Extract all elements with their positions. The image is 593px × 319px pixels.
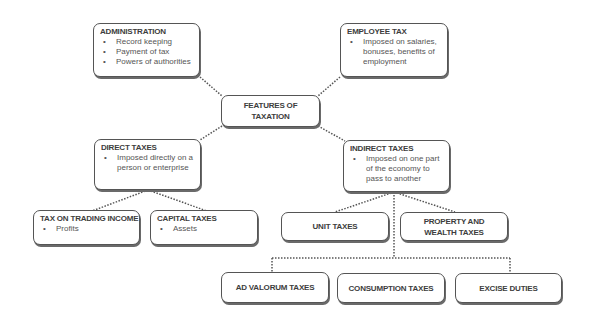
administration-node: ADMINISTRATION Record keeping Payment of… — [93, 23, 200, 77]
indirect-taxes-title: INDIRECT TAXES — [350, 144, 443, 153]
ad-valorum-taxes-node: AD VALORUM TAXES — [221, 272, 329, 303]
employee-tax-title: EMPLOYEE TAX — [347, 27, 441, 36]
indirect-taxes-bullet: Imposed on one part of the economy to pa… — [350, 154, 443, 184]
administration-bullet: Payment of tax — [100, 47, 193, 57]
unit-taxes-title: UNIT TAXES — [313, 221, 358, 232]
root-node: FEATURES OF TAXATION — [221, 95, 320, 127]
administration-bullet: Record keeping — [100, 37, 193, 47]
direct-taxes-bullet: Imposed directly on a person or enterpri… — [101, 153, 194, 173]
ad-valorum-taxes-title: AD VALORUM TAXES — [236, 282, 315, 293]
tax-on-trading-income-node: TAX ON TRADING INCOME Profits — [33, 210, 140, 245]
capital-taxes-title: CAPITAL TAXES — [157, 214, 251, 223]
tax-on-trading-income-bullet: Profits — [40, 224, 133, 234]
unit-taxes-node: UNIT TAXES — [281, 212, 389, 241]
administration-title: ADMINISTRATION — [100, 27, 193, 36]
direct-taxes-node: DIRECT TAXES Imposed directly on a perso… — [94, 139, 201, 190]
excise-duties-node: EXCISE DUTIES — [455, 273, 562, 303]
capital-taxes-node: CAPITAL TAXES Assets — [150, 210, 258, 245]
administration-bullet: Powers of authorities — [100, 57, 193, 67]
root-title: FEATURES OF TAXATION — [228, 100, 313, 122]
employee-tax-node: EMPLOYEE TAX Imposed on salaries, bonuse… — [340, 23, 448, 77]
consumption-taxes-node: CONSUMPTION TAXES — [337, 273, 445, 303]
employee-tax-bullet: Imposed on salaries, bonuses, benefits o… — [347, 37, 441, 67]
indirect-taxes-node: INDIRECT TAXES Imposed on one part of th… — [343, 140, 450, 192]
property-wealth-taxes-title: PROPERTY AND WEALTH TAXES — [419, 216, 489, 238]
consumption-taxes-title: CONSUMPTION TAXES — [349, 283, 434, 294]
excise-duties-title: EXCISE DUTIES — [479, 283, 537, 294]
direct-taxes-title: DIRECT TAXES — [101, 143, 194, 152]
capital-taxes-bullet: Assets — [157, 224, 251, 234]
property-wealth-taxes-node: PROPERTY AND WEALTH TAXES — [400, 212, 508, 241]
tax-on-trading-income-title: TAX ON TRADING INCOME — [40, 214, 133, 223]
